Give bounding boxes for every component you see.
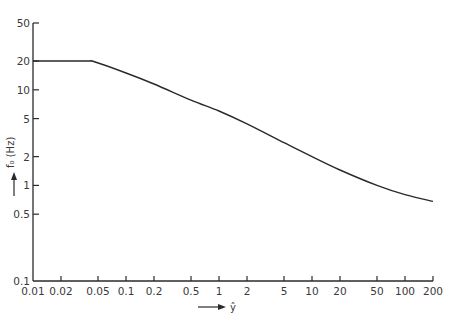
y-tick-label: 50 [17, 17, 30, 29]
x-axis-ticks: 0.010.020.050.10.20.5125102050100200 [21, 276, 443, 297]
x-tick-label: 1 [216, 285, 223, 297]
chart: 0.010.020.050.10.20.5125102050100200 0.1… [0, 0, 463, 329]
x-tick-label: 50 [370, 285, 383, 297]
x-tick-label: 0.2 [146, 285, 163, 297]
x-tick-label: 0.05 [86, 285, 109, 297]
y-tick-label: 0.5 [13, 208, 30, 220]
y-axis-label-group: f₀ (Hz) [5, 137, 17, 196]
y-tick-label: 5 [23, 113, 30, 125]
data-curve [33, 60, 433, 201]
y-axis-label: f₀ (Hz) [5, 137, 16, 168]
x-tick-label: 200 [423, 285, 443, 297]
y-tick-label: 1 [23, 179, 30, 191]
y-tick-label: 0.1 [13, 275, 30, 287]
x-tick-label: 20 [333, 285, 346, 297]
x-tick-label: 0.5 [183, 285, 200, 297]
x-tick-label: 100 [395, 285, 415, 297]
y-tick-label: 2 [23, 151, 30, 163]
x-tick-label: 5 [281, 285, 288, 297]
x-tick-label: 0.02 [49, 285, 72, 297]
x-tick-label: 10 [305, 285, 318, 297]
y-tick-label: 10 [17, 84, 30, 96]
x-axis-arrow-icon [218, 304, 226, 310]
x-axis-label-group: ŷ [198, 302, 236, 313]
y-axis-arrow-icon [11, 172, 17, 180]
x-tick-label: 0.1 [118, 285, 135, 297]
x-tick-label: 2 [244, 285, 251, 297]
x-axis-label: ŷ [230, 302, 236, 313]
y-tick-label: 20 [17, 55, 30, 67]
y-axis-ticks: 0.10.5125102050 [13, 17, 39, 287]
